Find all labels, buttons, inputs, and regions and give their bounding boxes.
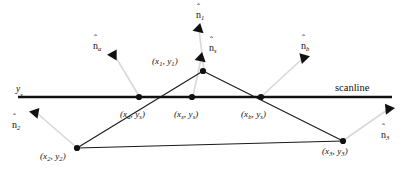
edge-v2-v3 xyxy=(77,141,343,148)
scan-point-label-pa: (xa, ys) xyxy=(120,110,145,119)
normal-label-nb: nb xyxy=(301,41,309,51)
normal-label-na: na xyxy=(93,41,101,51)
arrowhead-na xyxy=(107,47,121,61)
arrowhead-n1 xyxy=(193,22,206,34)
vertex-label-v3: (x3, y3) xyxy=(322,147,348,156)
scan-point-label-pb: (xb, ys) xyxy=(241,110,266,119)
vertex-label-v1: (x1, y1) xyxy=(152,57,178,66)
scanline-normal-interpolation-figure: ys scanline n1 ns na nb n2 n3 (x1, y1) (… xyxy=(0,0,415,174)
dot-v2 xyxy=(74,145,80,151)
dot-ps xyxy=(189,94,195,100)
edge-v1-v3 xyxy=(203,71,343,141)
leader-ns xyxy=(193,59,201,96)
leader-n2 xyxy=(38,114,76,147)
normal-label-ns: ns xyxy=(209,43,217,53)
dot-v3 xyxy=(340,138,346,144)
leader-nb xyxy=(262,59,302,96)
scanline-text-label: scanline xyxy=(335,83,369,94)
vertex-label-v2: (x2, y2) xyxy=(40,152,66,161)
normal-label-n1: n1 xyxy=(196,10,204,20)
normal-label-n3: n3 xyxy=(381,130,389,140)
dot-pa xyxy=(136,94,142,100)
dot-pb xyxy=(258,94,264,100)
scanline-y-label: ys xyxy=(16,85,23,96)
vertex-dots xyxy=(74,68,346,151)
dot-v1 xyxy=(200,68,206,74)
leader-na xyxy=(115,56,139,96)
scan-point-label-ps: (xs, ys) xyxy=(174,110,198,119)
polygon-edges xyxy=(77,71,343,148)
normal-label-n2: n2 xyxy=(12,120,20,130)
